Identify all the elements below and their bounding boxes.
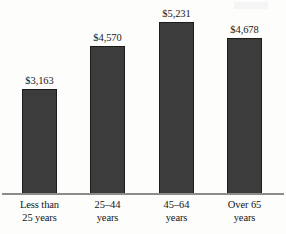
category-label: 25–44 years xyxy=(77,198,138,224)
x-axis-line xyxy=(2,193,284,195)
bar-value-label: $4,570 xyxy=(93,32,121,43)
bar[interactable] xyxy=(22,89,57,194)
bar-value-label: $3,163 xyxy=(25,75,53,86)
plot-area: $3,163 $4,570 $5,231 $4,678 xyxy=(0,0,286,194)
category-label-line: 45–64 xyxy=(146,198,207,211)
bar-chart: $3,163 $4,570 $5,231 $4,678 Less than 25… xyxy=(0,0,286,234)
category-label: 45–64 years xyxy=(146,198,207,224)
category-axis: Less than 25 years 25–44 years 45–64 yea… xyxy=(0,198,286,234)
category-label-line: years xyxy=(77,211,138,224)
bar[interactable] xyxy=(227,38,262,194)
bar-value-label: $5,231 xyxy=(162,8,190,19)
bar-value-label: $4,678 xyxy=(230,24,258,35)
category-label-line: years xyxy=(214,211,275,224)
bar-group: $5,231 xyxy=(159,0,194,194)
bar[interactable] xyxy=(159,22,194,194)
bar-group: $3,163 xyxy=(22,0,57,194)
category-label: Less than 25 years xyxy=(9,198,70,224)
category-label-line: 25 years xyxy=(9,211,70,224)
bar[interactable] xyxy=(90,46,125,194)
category-label-line: Less than xyxy=(9,198,70,211)
category-label-line: 25–44 xyxy=(77,198,138,211)
category-label-line: years xyxy=(146,211,207,224)
category-label-line: Over 65 xyxy=(214,198,275,211)
category-label: Over 65 years xyxy=(214,198,275,224)
bar-group: $4,570 xyxy=(90,0,125,194)
bar-group: $4,678 xyxy=(227,0,262,194)
